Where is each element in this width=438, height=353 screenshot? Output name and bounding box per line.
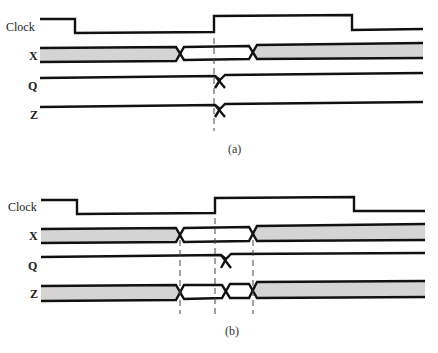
z-waveform-a <box>40 102 423 117</box>
clock-waveform-a <box>40 15 423 33</box>
label-z-a: Z <box>30 108 38 122</box>
caption-a: (a) <box>228 142 241 156</box>
label-q-a: Q <box>28 79 37 93</box>
clock-waveform-b <box>41 197 425 214</box>
timing-diagram: Clock X Q Z (a) Clock X <box>0 0 438 353</box>
label-q-b: Q <box>28 259 37 273</box>
label-clock-b: Clock <box>8 200 37 214</box>
label-x-b: X <box>29 229 38 243</box>
label-x-a: X <box>29 49 38 63</box>
label-z-b: Z <box>30 287 38 301</box>
z-bus-b <box>41 281 425 301</box>
caption-b: (b) <box>225 324 239 338</box>
panel-b: Clock X Q Z (b) <box>8 197 425 338</box>
x-bus-a <box>40 43 423 62</box>
q-waveform-a <box>40 73 423 88</box>
q-waveform-b <box>41 253 425 268</box>
x-bus-b <box>41 224 425 243</box>
panel-a: Clock X Q Z (a) <box>6 15 423 156</box>
label-clock-a: Clock <box>6 20 35 34</box>
